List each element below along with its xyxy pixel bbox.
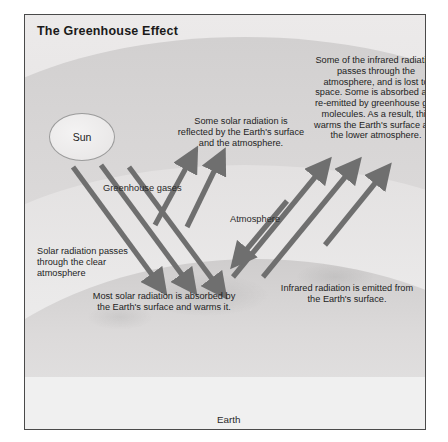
- sun-label: Sun: [73, 131, 92, 143]
- greenhouse-effect-figure: The Greenhouse Effect Sun Some solar rad…: [24, 14, 426, 430]
- sun-symbol: Sun: [49, 113, 115, 161]
- solar-reflected-arrow-2: [187, 157, 221, 227]
- label-atmosphere: Atmosphere: [230, 214, 280, 224]
- page-title: The Greenhouse Effect: [37, 24, 178, 38]
- annotation-infrared-emitted: Infrared radiation is emitted from the E…: [277, 283, 417, 305]
- label-greenhouse-gases: Greenhouse gases: [103, 183, 182, 193]
- infrared-backradiation-arrow: [237, 201, 287, 261]
- annotation-solar-reflected: Some solar radiation is reflected by the…: [177, 116, 305, 148]
- annotation-infrared-escape: Some of the infrared radiation passes th…: [313, 55, 426, 141]
- annotation-most-absorbed: Most solar radiation is absorbed by the …: [91, 291, 237, 313]
- infrared-escape-arrow: [325, 171, 385, 245]
- label-earth: Earth: [217, 414, 240, 425]
- annotation-solar-passes: Solar radiation passes through the clear…: [37, 246, 149, 278]
